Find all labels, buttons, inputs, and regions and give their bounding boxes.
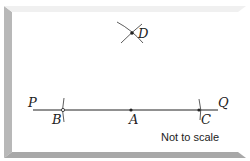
frame-bottom-bevel — [4, 152, 246, 158]
diagram-canvas: P Q B A C D Not to scale — [0, 0, 250, 161]
not-to-scale-note: Not to scale — [161, 132, 219, 143]
label-b: B — [52, 113, 62, 126]
frame-left-bevel — [4, 6, 12, 158]
point-d — [130, 31, 134, 35]
label-c: C — [201, 113, 211, 126]
label-a: A — [129, 113, 138, 126]
label-q: Q — [218, 96, 229, 109]
label-p: P — [28, 96, 37, 109]
label-d: D — [138, 27, 148, 40]
frame-top-bevel — [4, 6, 246, 12]
